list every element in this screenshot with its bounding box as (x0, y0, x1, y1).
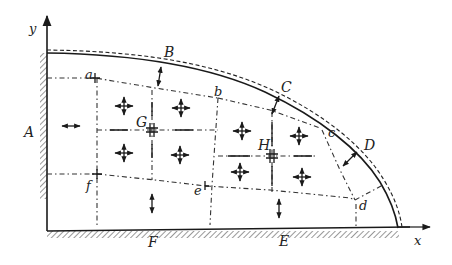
label-point-f: f (85, 178, 93, 193)
label-point-b: b (214, 84, 222, 99)
label-region-c: C (281, 79, 292, 95)
fixed-support-left (40, 53, 47, 199)
label-point-c: c (328, 125, 336, 140)
stress-arrows-region-h (228, 122, 312, 186)
label-region-g: G (136, 114, 147, 130)
y-axis-label: y (28, 21, 37, 36)
label-region-d: D (363, 137, 375, 153)
x-axis-label: x (414, 233, 422, 248)
label-point-a: a (85, 67, 93, 82)
fixed-support-bottom (47, 231, 399, 238)
subregion-lines (47, 78, 383, 227)
label-region-a: A (22, 124, 34, 140)
region-d-arrow (343, 152, 357, 166)
region-b-arrow (158, 67, 161, 86)
region-c-arrow (272, 96, 279, 114)
label-region-f: F (147, 234, 159, 250)
label-region-b: B (163, 44, 174, 60)
boundary-region-arrows (62, 67, 357, 218)
diagram-canvas: y x (0, 0, 452, 265)
label-point-e: e (194, 183, 202, 198)
label-point-d: d (359, 198, 367, 213)
label-region-h: H (257, 137, 271, 153)
label-region-e: E (278, 233, 289, 249)
